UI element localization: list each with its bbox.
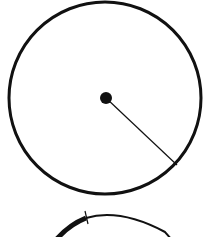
center-point	[100, 92, 112, 104]
lower-circle-arc-thick	[52, 218, 86, 237]
lower-circle-arc-thin	[86, 215, 172, 237]
radius-line	[106, 98, 177, 165]
geometry-diagram	[0, 0, 203, 237]
